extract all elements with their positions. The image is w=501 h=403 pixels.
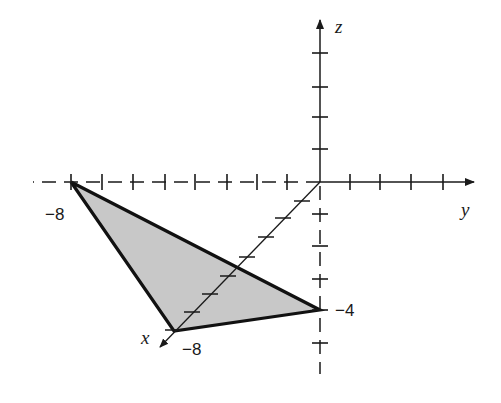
y-axis-label: y xyxy=(459,199,470,220)
z-tick-label-neg4: −4 xyxy=(335,301,354,320)
y-tick-label-neg8: −8 xyxy=(45,205,64,224)
x-axis-label: x xyxy=(140,327,150,348)
coordinate-diagram: z y x −8 −8 −4 xyxy=(0,0,501,403)
shaded-triangle xyxy=(71,182,320,331)
z-axis-label: z xyxy=(334,16,343,37)
x-tick-label-neg8: −8 xyxy=(182,340,201,359)
